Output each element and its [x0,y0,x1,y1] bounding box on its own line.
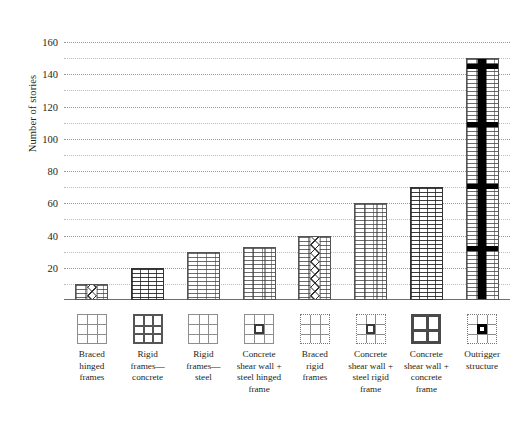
icon-rule-h2 [468,334,496,335]
category-label: Concreteshear wall +steel rigidframe [343,349,399,395]
category-label-line: steel rigid [344,372,398,384]
category-label-line: frame [344,384,398,396]
category-label-line: frame [400,384,454,396]
category-label-line: frame [232,384,286,396]
category-label-line: Concrete [232,349,286,361]
icon-rule-h2 [357,334,385,335]
icon-rule-v1 [199,315,200,343]
category-label-line: concrete [400,372,454,384]
bar-braced-core [86,285,97,299]
category-rigid-frames-steel: Rigidframes—steel [176,300,232,384]
y-axis-tick-label: 160 [42,37,58,48]
category-label-line: Concrete [344,349,398,361]
icon-rule-v2 [152,316,154,342]
category-label: Concreteshear wall +concreteframe [399,349,455,395]
gridline-major [64,107,510,108]
icon-core-square-bold [477,324,486,333]
bar-concrete-shear-wall-steel-hinged-frame [243,247,276,300]
icon-rule-h1 [135,325,161,327]
category-label: Concreteshear wall +steel hingedframe [231,349,287,395]
category-concrete-shear-wall-steel-rigid-frame: Concreteshear wall +steel rigidframe [343,300,399,395]
grid-bold-2x2-icon [411,314,441,344]
category-label-line: frames— [177,361,231,373]
bar-braced-core [309,237,320,299]
gridline-minor [64,58,510,59]
icon-rule-h1 [78,324,106,325]
grid-thin-3x3-icon [77,314,107,344]
category-label-line: frames— [121,361,175,373]
category-braced-rigid-frames: Bracedrigidframes [287,300,343,384]
gridline-minor [64,219,510,220]
outrigger-band-2 [467,122,498,127]
y-axis-tick-label: 40 [48,230,59,241]
gridline-major [64,203,510,204]
grid-center-square-icon [244,314,274,344]
category-label-line: frames [288,372,342,384]
y-axis-tick-label: 120 [42,101,58,112]
icon-rule-h2 [301,334,329,335]
bar-braced-hinged-frames [75,284,108,300]
icon-rule-h2 [78,334,106,335]
icon-rule-v2 [487,315,488,343]
y-axis-tick-label: 60 [48,198,59,209]
x-bracing-pattern [310,237,319,299]
y-axis-tick-label: 140 [42,69,58,80]
bar-rigid-frames-steel [187,252,220,300]
y-axis-tick-label: 100 [42,133,58,144]
plot-area: 16014012010080604020 [64,26,510,300]
icon-rule-v1 [310,315,311,343]
bar-column-lines [411,188,442,299]
bar-column-lines [188,253,219,299]
category-label-line: shear wall + [400,361,454,373]
category-label-line: rigid [288,361,342,373]
category-label-line: hinged [65,361,119,373]
grid-dotted-center-square-icon [356,314,386,344]
bar-outrigger-core [478,59,487,299]
bar-shear-wall-core [253,248,266,299]
gridline-minor [64,90,510,91]
gridline-major [64,236,510,237]
icon-rule-v1 [87,315,88,343]
category-label: Outriggerstructure [454,349,510,372]
icon-core-square [254,324,263,333]
category-rigid-frames-concrete: Rigidframes—concrete [120,300,176,384]
icon-rule-v2 [320,315,321,343]
icon-rule-v2 [264,315,265,343]
gridline-minor [64,155,510,156]
y-axis-tick-label: 20 [48,262,59,273]
icon-rule-h1 [189,324,217,325]
icon-rule-h1 [301,324,329,325]
category-label-line: Rigid [121,349,175,361]
grid-dotted-bold-center-icon [467,314,497,344]
category-concrete-shear-wall-steel-hinged-frame: Concreteshear wall +steel hingedframe [231,300,287,395]
icon-rule-h1 [414,329,438,332]
category-label: Bracedhingedframes [64,349,120,384]
icon-rule-h2 [189,334,217,335]
icon-rule-h2 [135,333,161,335]
category-label-line: shear wall + [344,361,398,373]
category-label-line: steel hinged [232,372,286,384]
category-label: Bracedrigidframes [287,349,343,384]
bar-chart: Number of stories 16014012010080604020 B… [0,0,528,423]
bar-braced-rigid-frames [298,236,331,300]
category-label-line: structure [455,361,509,373]
category-label-line: Rigid [177,349,231,361]
gridline-minor [64,252,510,253]
category-legend-row: BracedhingedframesRigidframes—concreteRi… [64,300,510,423]
category-label: Rigidframes—concrete [120,349,176,384]
category-label-line: frames [65,372,119,384]
category-label: Rigidframes—steel [176,349,232,384]
category-outrigger-structure: Outriggerstructure [454,300,510,372]
outrigger-band-4 [467,246,498,251]
icon-rule-v1 [143,316,145,342]
gridline-minor [64,187,510,188]
grid-dotted-border-icon [300,314,330,344]
icon-rule-v2 [208,315,209,343]
outrigger-band-3 [467,184,498,189]
bar-rigid-frames-concrete [131,268,164,300]
bar-concrete-shear-wall-steel-rigid-frame [354,203,387,300]
y-axis-tick-label: 80 [48,166,59,177]
icon-rule-h2 [245,334,273,335]
icon-core-square [366,324,375,333]
gridline-major [64,42,510,43]
